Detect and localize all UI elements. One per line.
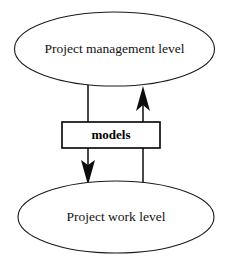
node-models[interactable]: models	[62, 122, 160, 148]
project-management-level-label: Project management level	[44, 41, 184, 56]
models-label: models	[92, 127, 131, 142]
diagram-canvas: Project management level models Project …	[0, 0, 229, 268]
project-work-level-label: Project work level	[67, 209, 166, 224]
node-project-management-level[interactable]: Project management level	[15, 12, 215, 86]
node-project-work-level[interactable]: Project work level	[18, 181, 214, 253]
